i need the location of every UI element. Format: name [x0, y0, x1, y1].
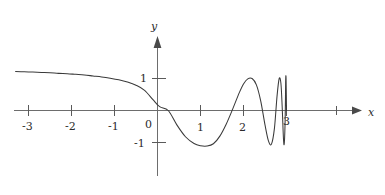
axes-group [14, 36, 362, 176]
x-tick-label--3: -3 [22, 120, 33, 133]
x-axis-label: x [368, 106, 375, 119]
y-axis-label: y [150, 20, 158, 33]
x-tick-label-0: 0 [145, 118, 152, 131]
function-graph-figure: -3 -2 -1 0 1 2 3 1 -1 x y [0, 0, 385, 195]
y-tick-label-1: 1 [140, 72, 147, 85]
x-tick-labels: -3 -2 -1 0 1 2 3 [22, 115, 290, 134]
x-tick-label-2: 2 [239, 121, 246, 134]
x-axis-arrowhead [352, 107, 362, 115]
y-tick-label--1: -1 [134, 137, 145, 150]
x-tick-label--1: -1 [108, 120, 119, 133]
x-tick-label--2: -2 [65, 120, 76, 133]
function-curve [16, 71, 287, 146]
y-axis-arrowhead [154, 36, 162, 48]
x-tick-label-3: 3 [283, 115, 290, 128]
x-tick-label-1: 1 [197, 121, 204, 134]
